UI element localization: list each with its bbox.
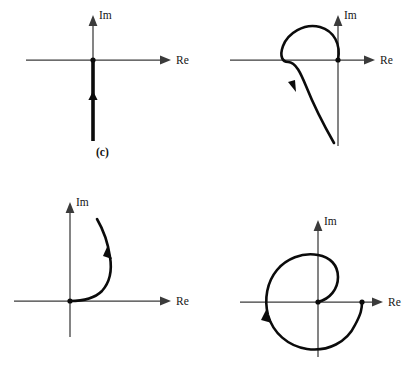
axes-c bbox=[26, 15, 171, 78]
imag-axis-label-f: Im bbox=[324, 215, 337, 227]
imag-axis-arrowhead-e bbox=[66, 202, 75, 213]
panel-e: Im Re (e) bbox=[0, 189, 204, 379]
direction-arrow-c bbox=[88, 91, 97, 100]
nyquist-plot-figure: Im Re (c) Im Re bbox=[0, 0, 408, 379]
origin-marker-e bbox=[67, 298, 72, 303]
axes-f bbox=[240, 220, 383, 357]
real-axis-label-c: Re bbox=[176, 54, 189, 66]
real-axis-arrowhead-f bbox=[372, 298, 383, 307]
panel-d: Im Re (d) bbox=[204, 0, 408, 190]
imag-axis-label-e: Im bbox=[76, 196, 89, 208]
real-axis-label-f: Re bbox=[388, 296, 401, 308]
locus-path-e bbox=[70, 219, 111, 301]
real-axis-arrowhead-d bbox=[364, 56, 375, 65]
nyquist-curve-c bbox=[88, 57, 97, 141]
end-marker-f bbox=[359, 299, 364, 304]
real-axis-arrowhead-e bbox=[160, 297, 171, 306]
origin-marker-c bbox=[90, 57, 95, 62]
imag-axis-arrowhead-c bbox=[89, 15, 98, 26]
imag-axis-label-d: Im bbox=[344, 9, 357, 21]
nyquist-curve-d bbox=[281, 26, 340, 143]
locus-path-d bbox=[281, 26, 338, 143]
nyquist-curve-e bbox=[67, 219, 112, 304]
axes-e bbox=[14, 202, 171, 337]
origin-marker-f bbox=[315, 299, 320, 304]
origin-marker-d bbox=[335, 57, 340, 62]
imag-axis-arrowhead-d bbox=[334, 15, 343, 26]
panel-label-c: (c) bbox=[96, 146, 109, 158]
panel-f: Im Re (f) bbox=[204, 189, 408, 379]
panel-c: Im Re (c) bbox=[0, 0, 204, 190]
imag-axis-arrowhead-f bbox=[314, 220, 323, 231]
real-axis-label-d: Re bbox=[380, 54, 393, 66]
direction-arrow-f bbox=[261, 310, 272, 323]
real-axis-label-e: Re bbox=[176, 295, 189, 307]
direction-arrow-d bbox=[288, 80, 296, 92]
imag-axis-label-c: Im bbox=[99, 9, 112, 21]
real-axis-arrowhead-c bbox=[160, 56, 171, 65]
